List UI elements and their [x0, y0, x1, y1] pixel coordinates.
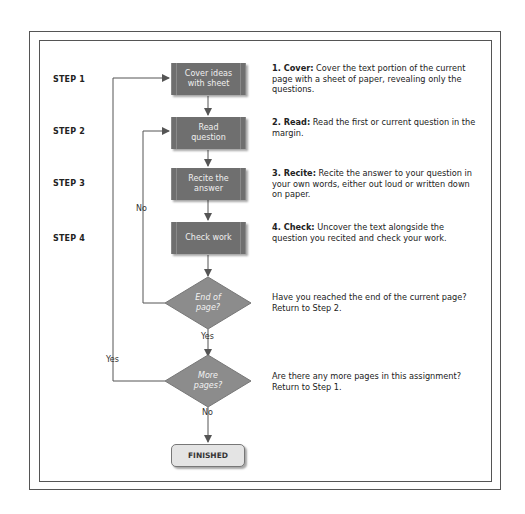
process-box-check: Check work	[171, 222, 246, 254]
step-1-description: 1. Cover: Cover the text portion of the …	[272, 63, 482, 95]
step-term: 1. Cover:	[272, 63, 314, 73]
step-2-label: STEP 2	[53, 127, 85, 136]
step-term: 4. Check:	[272, 222, 315, 232]
decision-2-text: Morepages?	[178, 371, 238, 391]
step-2-description: 2. Read: Read the first or current quest…	[272, 117, 482, 138]
box-text-line: answer	[194, 184, 223, 193]
step-term: 3. Recite:	[272, 168, 316, 178]
box-text-line: Recite the	[188, 174, 228, 183]
box-text-line: question	[191, 133, 226, 142]
step-term: 2. Read:	[272, 117, 310, 127]
decision-1-text: End ofpage?	[178, 293, 238, 313]
branch-label-yes-1: Yes	[201, 332, 214, 341]
box-text-line: with sheet	[188, 79, 230, 88]
box-text-line: Check work	[185, 233, 232, 242]
finished-terminal: FINISHED	[171, 444, 245, 467]
process-box-read: Readquestion	[171, 117, 246, 149]
decision-text-line: pages?	[194, 381, 222, 390]
decision-text-line: More	[198, 371, 218, 380]
box-text-line: Cover ideas	[185, 69, 232, 78]
step-3-label: STEP 3	[53, 179, 85, 188]
process-box-recite: Recite theanswer	[171, 168, 246, 200]
step-1-label: STEP 1	[53, 75, 85, 84]
branch-label-yes-2: Yes	[106, 355, 119, 364]
box-text-line: Read	[198, 123, 218, 132]
decision-2-description: Are there any more pages in this assignm…	[272, 371, 482, 392]
process-box-cover: Cover ideaswith sheet	[171, 63, 246, 95]
step-3-description: 3. Recite: Recite the answer to your que…	[272, 168, 482, 200]
step-4-description: 4. Check: Uncover the text alongside the…	[272, 222, 482, 243]
decision-1-description: Have you reached the end of the current …	[272, 292, 482, 313]
step-4-label: STEP 4	[53, 234, 85, 243]
branch-label-no-2: No	[202, 408, 213, 417]
decision-text-line: End of	[195, 293, 220, 302]
branch-label-no-1: No	[136, 204, 147, 213]
decision-text-line: page?	[196, 303, 220, 312]
